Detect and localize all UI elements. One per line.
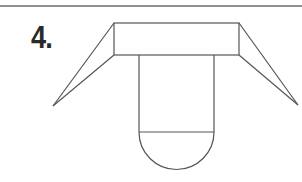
top-box [114, 23, 239, 55]
stem [139, 55, 214, 132]
figure-number-label: 4. [31, 20, 52, 54]
left-wing [53, 23, 114, 106]
right-wing [239, 23, 298, 105]
diagram-figure: 4. [0, 0, 302, 182]
bottom-semicircle [139, 132, 214, 170]
